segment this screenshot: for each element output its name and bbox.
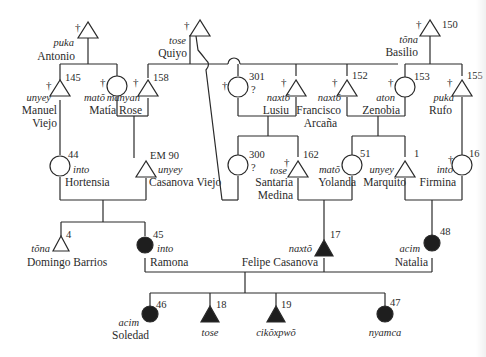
kin-term-lusiu: naxtõ (267, 92, 291, 103)
kin-term-soledad: acim (119, 317, 140, 328)
number-ramona: 45 (153, 229, 164, 240)
kin-term-19: cikõxpwõ (256, 327, 296, 338)
deceased-marker: † (75, 21, 81, 33)
female-symbol-yolanda (342, 155, 362, 175)
female-symbol-ramona (137, 237, 153, 253)
kin-term-matia: manyan (107, 92, 140, 103)
name-casanova-viejo: Casanova Viejo (149, 176, 221, 189)
kin-term-felipe: naxtõ (289, 243, 313, 254)
number-felipe: 17 (330, 229, 341, 240)
male-symbol-basilio (420, 20, 440, 36)
number-francisco: 152 (352, 70, 368, 81)
number-19: 19 (281, 299, 292, 310)
number-casanova-viejo: EM 90 (150, 150, 179, 161)
female-symbol-300 (228, 155, 248, 175)
name-natalia: Natalia (395, 256, 428, 268)
kin-term-santaria: tose (270, 165, 287, 176)
female-symbol-301 (228, 77, 248, 97)
kin-term-quiyo: tose (169, 35, 186, 46)
deceased-marker: † (133, 76, 139, 88)
kin-term-18: tose (202, 327, 219, 338)
number-marquito: 1 (414, 148, 419, 159)
female-symbol-47 (377, 306, 393, 322)
name-matia: Matía Rose (89, 104, 142, 116)
name-rufo: Rufo (429, 104, 452, 116)
kin-term-francisco: naxtõ (318, 92, 342, 103)
number-manuel: 145 (65, 72, 81, 83)
name-zenobia: Zenobia (362, 104, 400, 116)
deceased-marker: † (281, 76, 287, 88)
male-symbol-marquito (395, 161, 415, 177)
number-matia: 158 (153, 72, 169, 83)
number-basilio: 150 (442, 19, 458, 30)
name-santaria: Santaria (255, 176, 293, 188)
number-301: 301 (249, 71, 265, 82)
name-quiyo: Quiyo (158, 47, 187, 60)
name-santaria-line2: Medina (258, 189, 293, 201)
kin-term-mato-wife: matõ (84, 92, 106, 103)
name-manuel-line2: Viejo (32, 117, 57, 130)
number-santaria: 162 (303, 149, 319, 160)
kinship-symbols (50, 20, 472, 322)
number-domingo: 4 (66, 229, 72, 240)
name-soledad: Soledad (112, 329, 149, 341)
name-francisco: Francisco (296, 104, 341, 116)
kin-term-firmina: into (437, 164, 453, 175)
number-18: 18 (216, 299, 227, 310)
name-lusiu: Lusiu (263, 104, 289, 116)
male-symbol-casanova-viejo (136, 161, 156, 177)
number-47: 47 (390, 297, 401, 308)
number-300: 300 (249, 149, 265, 160)
kin-term-natalia: acim (400, 243, 421, 254)
female-symbol-hortensia (50, 156, 70, 176)
name-marquito: Marquito (363, 176, 406, 189)
number-zenobia: 153 (414, 71, 430, 82)
deceased-marker: † (46, 79, 52, 91)
name-antonio: Antonio (37, 50, 75, 62)
kin-term-zenobia: aton (376, 92, 395, 103)
deceased-marker: † (447, 76, 453, 88)
name-basilio: Basilio (385, 46, 418, 58)
page-edge-shadow (476, 0, 486, 357)
deceased-marker: † (332, 76, 338, 88)
kin-term-manuel: unyey (27, 92, 52, 103)
deceased-marker: † (388, 76, 394, 88)
kin-term-domingo: tõna (31, 243, 50, 254)
name-hortensia: Hortensia (65, 176, 110, 188)
number-natalia: 48 (440, 226, 451, 237)
female-symbol-natalia (424, 235, 440, 251)
name-manuel: Manuel (22, 104, 57, 116)
kinship-diagram: † puka Antonio † tose Quiyo † 150 tõna B… (0, 0, 486, 357)
number-hortensia: 44 (68, 149, 79, 160)
kin-term-yolanda: matõ (319, 164, 341, 175)
deceased-marker: † (184, 19, 190, 31)
male-symbol-quiyo (190, 20, 210, 36)
number-yolanda: 51 (360, 148, 371, 159)
kin-term-hortensia: into (73, 164, 89, 175)
name-felipe: Felipe Casanova (242, 256, 318, 269)
kin-term-casanova-viejo: unyey (158, 164, 183, 175)
kin-term-47: nyamca (369, 327, 402, 338)
number-soledad: 46 (156, 299, 167, 310)
male-symbol-felipe (315, 240, 333, 256)
kin-term-rufo: puka (433, 92, 454, 103)
name-ramona: Ramona (150, 256, 188, 268)
name-firmina: Firmina (420, 176, 456, 188)
name-domingo: Domingo Barrios (27, 256, 108, 269)
unknown-marker-300: ? (251, 162, 256, 173)
deceased-marker: † (416, 18, 422, 30)
male-symbol-santaria (288, 161, 308, 177)
kin-term-antonio: puka (53, 37, 74, 48)
kin-term-basilio: tõna (399, 34, 418, 45)
male-symbol-antonio (78, 22, 98, 38)
unknown-marker-301: ? (251, 84, 256, 95)
name-francisco-line2: Arcaña (304, 117, 337, 129)
female-symbol-zenobia (395, 77, 415, 97)
male-symbol-rufo (452, 80, 472, 96)
kin-term-ramona: into (157, 243, 173, 254)
kin-term-marquito: unyey (370, 164, 395, 175)
name-yolanda: Yolanda (318, 176, 356, 188)
deceased-marker: † (100, 76, 106, 88)
deceased-marker: † (222, 79, 228, 91)
